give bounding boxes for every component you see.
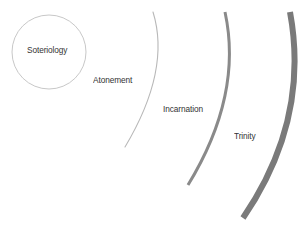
- diagram-canvas: Soteriology Atonement Incarnation Trinit…: [0, 0, 301, 229]
- incarnation-arc: [188, 12, 229, 185]
- incarnation-label: Incarnation: [163, 104, 203, 114]
- diagram-svg: [0, 0, 301, 229]
- trinity-arc: [243, 12, 295, 218]
- atonement-label: Atonement: [93, 75, 132, 85]
- soteriology-label: Soteriology: [27, 45, 67, 55]
- trinity-label: Trinity: [234, 131, 256, 141]
